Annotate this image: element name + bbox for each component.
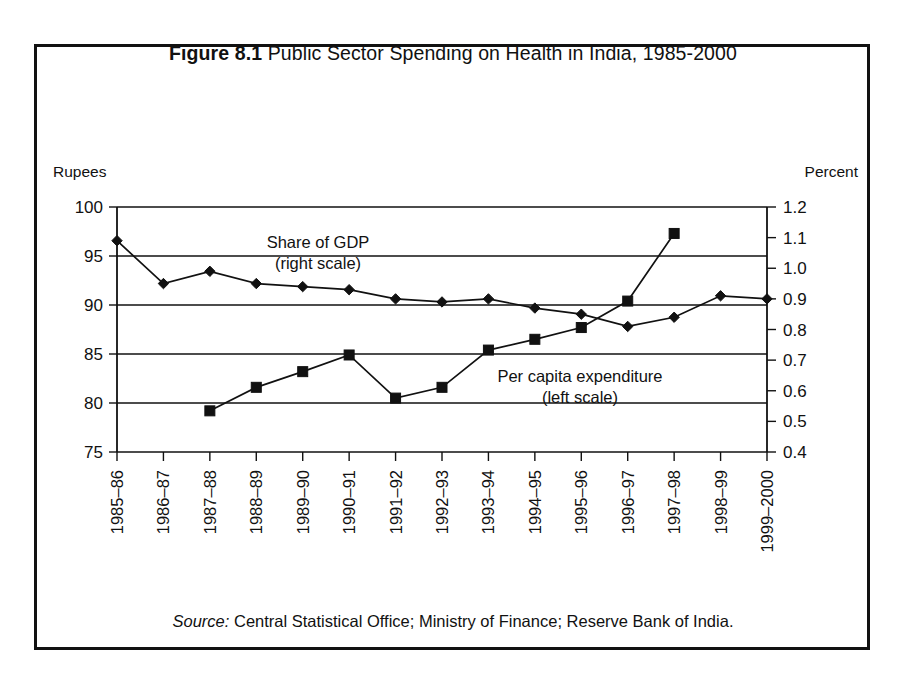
figure-title: Figure 8.1 Public Sector Spending on Hea… bbox=[0, 42, 906, 65]
figure-title-text: Public Sector Spending on Health in Indi… bbox=[268, 42, 737, 64]
left-axis-title: Rupees bbox=[53, 163, 106, 181]
right-axis-title: Percent bbox=[805, 163, 858, 181]
source-label: Source: bbox=[173, 612, 230, 630]
figure-border bbox=[34, 44, 870, 650]
source-text: Central Statistical Office; Ministry of … bbox=[234, 612, 734, 630]
figure-number: Figure 8.1 bbox=[169, 42, 262, 64]
source-note: Source: Central Statistical Office; Mini… bbox=[0, 612, 906, 631]
